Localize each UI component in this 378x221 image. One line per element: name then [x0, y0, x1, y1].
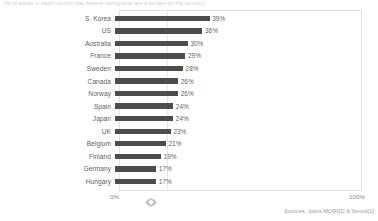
bar-category-label: Australia — [0, 40, 115, 47]
bar-category-label: Belgium — [0, 140, 115, 147]
bar-value-label: 26% — [181, 78, 194, 85]
bar-chart: (% of adults in each country that believ… — [0, 0, 378, 221]
chart-sources: Sources: Ipsos MORI[1] & Novus[1] — [284, 207, 374, 215]
bar-value-label: 17% — [159, 178, 172, 185]
bar — [115, 28, 202, 33]
bar-category-label: Finland — [0, 153, 115, 160]
bar — [115, 53, 185, 58]
bar — [115, 66, 183, 71]
bar-value-label: 30% — [190, 40, 203, 47]
bar — [115, 141, 166, 146]
bar-value-label: 19% — [164, 153, 177, 160]
bar — [115, 129, 171, 134]
bar-track: 39% — [115, 12, 378, 25]
bar-row: France29% — [0, 50, 378, 63]
bar-row: Sweden28% — [0, 62, 378, 75]
bar-row: US36% — [0, 25, 378, 38]
bar-category-label: France — [0, 52, 115, 59]
x-axis-tick-min: 0% — [110, 193, 119, 201]
bar-track: 24% — [115, 100, 378, 113]
bar-value-label: 24% — [176, 103, 189, 110]
diamond-gem-logo-icon — [143, 196, 159, 210]
bar — [115, 116, 173, 121]
bar-value-label: 23% — [173, 128, 186, 135]
bar-track: 23% — [115, 125, 378, 138]
bar-track: 26% — [115, 75, 378, 88]
bar-rows: S. Korea39%US36%Australia30%France29%Swe… — [0, 12, 378, 188]
bar-category-label: Germany — [0, 165, 115, 172]
bar — [115, 103, 173, 108]
bar-value-label: 26% — [181, 90, 194, 97]
bar-value-label: 39% — [212, 15, 225, 22]
bar-row: Australia30% — [0, 37, 378, 50]
bar — [115, 78, 178, 83]
bar-category-label: Spain — [0, 103, 115, 110]
bar — [115, 179, 156, 184]
bar-row: Hungary17% — [0, 175, 378, 188]
bar-row: Spain24% — [0, 100, 378, 113]
bar-category-label: Japan — [0, 115, 115, 122]
bar-row: Germany17% — [0, 163, 378, 176]
bar-row: Norway26% — [0, 87, 378, 100]
bar-value-label: 29% — [188, 52, 201, 59]
bar-category-label: Sweden — [0, 65, 115, 72]
bar — [115, 16, 210, 21]
bar-track: 29% — [115, 50, 378, 63]
bar-track: 26% — [115, 87, 378, 100]
bar-category-label: S. Korea — [0, 15, 115, 22]
bar-value-label: 36% — [205, 27, 218, 34]
bar-row: S. Korea39% — [0, 12, 378, 25]
bar-category-label: Hungary — [0, 178, 115, 185]
bar — [115, 154, 161, 159]
bar — [115, 166, 156, 171]
bar-row: UK23% — [0, 125, 378, 138]
bar-category-label: UK — [0, 128, 115, 135]
bar-row: Belgium21% — [0, 137, 378, 150]
bar-track: 28% — [115, 62, 378, 75]
bar — [115, 41, 188, 46]
bar-track: 17% — [115, 163, 378, 176]
bar-category-label: Canada — [0, 78, 115, 85]
bar-value-label: 17% — [159, 165, 172, 172]
bar-track: 17% — [115, 175, 378, 188]
bar-row: Canada26% — [0, 75, 378, 88]
bar-value-label: 24% — [176, 115, 189, 122]
bar — [115, 91, 178, 96]
bar-track: 24% — [115, 112, 378, 125]
bar-row: Finland19% — [0, 150, 378, 163]
bar-row: Japan24% — [0, 112, 378, 125]
x-axis-tick-max: 100% — [349, 193, 365, 201]
bar-category-label: US — [0, 27, 115, 34]
bar-track: 21% — [115, 137, 378, 150]
bar-value-label: 28% — [186, 65, 199, 72]
chart-caption: (% of adults in each country that believ… — [4, 0, 234, 8]
bar-category-label: Norway — [0, 90, 115, 97]
bar-track: 30% — [115, 37, 378, 50]
bar-track: 36% — [115, 25, 378, 38]
bar-value-label: 21% — [169, 140, 182, 147]
bar-track: 19% — [115, 150, 378, 163]
